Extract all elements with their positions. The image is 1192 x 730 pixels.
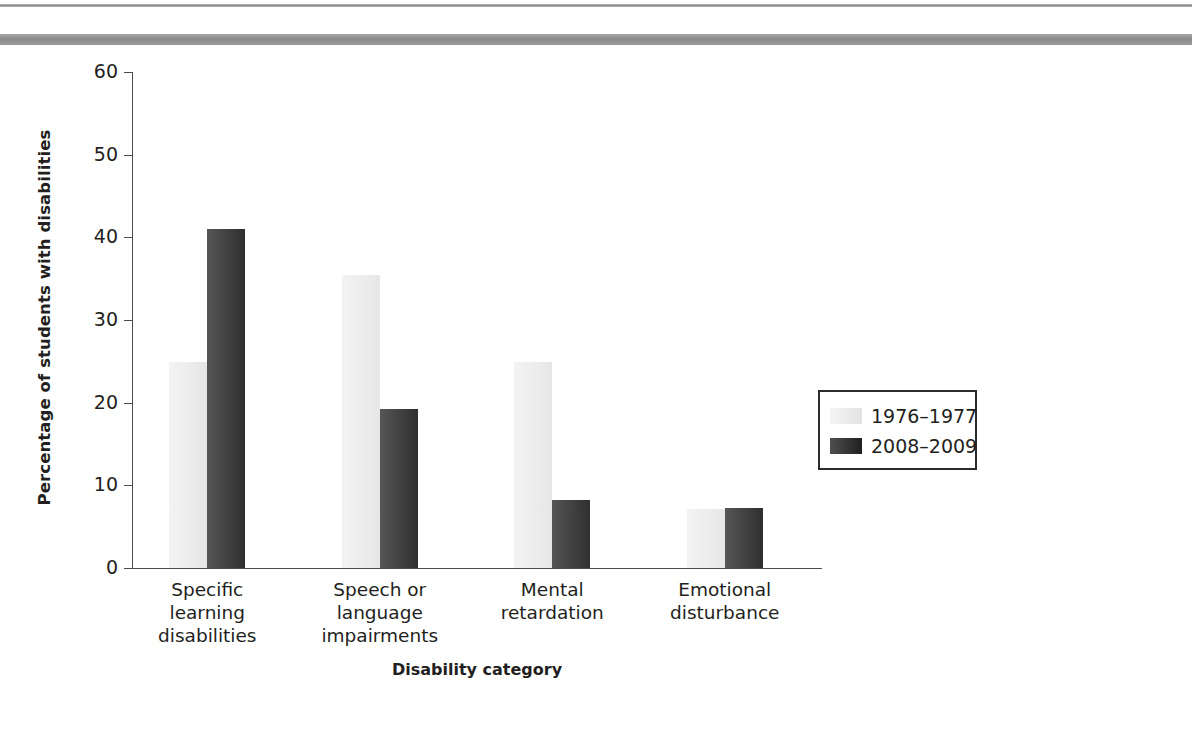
bar-series1 — [687, 509, 725, 568]
y-tick-mark — [124, 568, 132, 569]
legend-swatch-2008-2009 — [830, 438, 862, 454]
category-label-line: learning — [117, 601, 297, 624]
bar-chart: 0102030405060 Percentage of students wit… — [0, 50, 1192, 730]
y-tick-label: 30 — [74, 310, 118, 329]
category-label: Mentalretardation — [462, 578, 642, 624]
y-tick-mark — [124, 237, 132, 238]
y-tick-label: 50 — [74, 145, 118, 164]
category-label: Emotionaldisturbance — [635, 578, 815, 624]
plot-area — [132, 72, 822, 568]
bar-series1 — [514, 362, 552, 568]
category-label-line: Specific — [117, 578, 297, 601]
legend-label-2008-2009: 2008–2009 — [871, 435, 977, 457]
x-axis-title: Disability category — [132, 660, 822, 679]
category-label-line: language — [290, 601, 470, 624]
chart-legend: 1976–1977 2008–2009 — [818, 390, 977, 470]
legend-item[interactable]: 2008–2009 — [830, 431, 965, 461]
legend-label-1976-1977: 1976–1977 — [871, 405, 977, 427]
bar-series2 — [552, 500, 590, 568]
category-label: Specificlearningdisabilities — [117, 578, 297, 647]
y-tick-mark — [124, 155, 132, 156]
category-label-line: disturbance — [635, 601, 815, 624]
bar-series2 — [207, 229, 245, 568]
category-label-line: impairments — [290, 624, 470, 647]
bar-series1 — [169, 362, 207, 568]
bar-series1 — [342, 275, 380, 568]
y-tick-mark — [124, 320, 132, 321]
top-rule-thick — [0, 34, 1192, 45]
category-label: Speech orlanguageimpairments — [290, 578, 470, 647]
y-axis-title: Percentage of students with disabilities — [35, 88, 54, 548]
y-tick-mark — [124, 72, 132, 73]
category-label-line: Mental — [462, 578, 642, 601]
x-axis-line — [132, 568, 822, 569]
y-tick-label: 0 — [74, 558, 118, 577]
y-tick-label: 60 — [74, 62, 118, 81]
y-tick-mark — [124, 485, 132, 486]
category-label-line: disabilities — [117, 624, 297, 647]
category-label-line: Emotional — [635, 578, 815, 601]
y-tick-label: 10 — [74, 475, 118, 494]
bar-series2 — [380, 409, 418, 568]
y-tick-label: 20 — [74, 393, 118, 412]
legend-item[interactable]: 1976–1977 — [830, 401, 965, 431]
y-tick-label: 40 — [74, 227, 118, 246]
category-label-line: retardation — [462, 601, 642, 624]
legend-swatch-1976-1977 — [830, 408, 862, 424]
y-tick-mark — [124, 403, 132, 404]
category-label-line: Speech or — [290, 578, 470, 601]
bar-series2 — [725, 508, 763, 568]
top-rule-thin — [0, 4, 1192, 7]
